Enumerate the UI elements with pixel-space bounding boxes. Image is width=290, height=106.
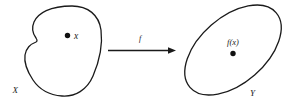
codomain-element-dot <box>230 51 235 56</box>
diagram-canvas: x X f f(x) Y <box>0 0 290 106</box>
codomain-element-label: f(x) <box>227 37 239 47</box>
mapping-arrow-head <box>168 47 176 54</box>
domain-set-group: x X <box>12 6 102 96</box>
codomain-set-outline <box>168 0 290 106</box>
domain-element-label: x <box>73 31 79 41</box>
domain-set-outline <box>25 6 102 96</box>
function-mapping-diagram: x X f f(x) Y <box>0 0 290 106</box>
codomain-set-label: Y <box>250 88 256 98</box>
domain-set-label: X <box>12 85 19 95</box>
domain-element-dot <box>65 33 70 38</box>
mapping-arrow-label: f <box>139 34 143 43</box>
mapping-arrow-group: f <box>108 34 176 54</box>
codomain-set-group: f(x) Y <box>168 0 290 106</box>
